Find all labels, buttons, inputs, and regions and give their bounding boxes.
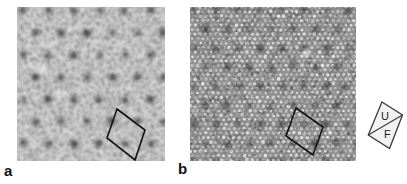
crystal-orientation-rhombus-icon: UF	[366, 100, 404, 150]
figure-root: a b UF	[0, 0, 407, 184]
orientation-label-u: U	[381, 110, 389, 122]
panel-a-label: a	[4, 163, 12, 178]
orientation-label-f: F	[384, 128, 391, 140]
panel-b-label: b	[178, 161, 187, 176]
panel-a-micrograph	[17, 7, 165, 161]
panel-b-micrograph	[190, 7, 356, 161]
